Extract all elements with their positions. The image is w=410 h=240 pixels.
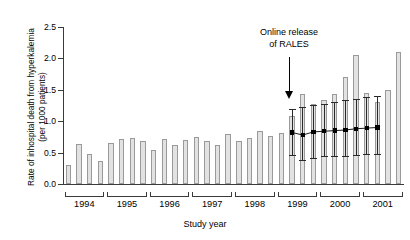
year-bracket-1995 [107,192,147,197]
data-point-marker [343,128,347,132]
y-tick-label-2.0: 2.0 [16,53,56,63]
y-tick-label-0.5: 0.5 [16,147,56,157]
year-bracket-2000 [320,192,360,197]
trend-line [63,27,404,184]
year-label-2001: 2001 [363,199,403,209]
year-label-2000: 2000 [320,199,360,209]
year-bracket-1999 [278,192,318,197]
data-point-marker [365,126,369,130]
year-label-1998: 1998 [235,199,275,209]
year-bracket-1996 [150,192,190,197]
x-axis-title: Study year [0,219,410,229]
chart-figure: Rate of inhospital death from hyperkalem… [0,0,410,240]
data-point-marker [333,128,337,132]
data-point-marker [311,130,315,134]
y-tick-label-2.5: 2.5 [16,22,56,32]
year-bracket-1994 [65,192,105,197]
year-bracket-2001 [363,192,403,197]
annotation-rales: Online release of RALES [228,27,350,50]
year-label-1997: 1997 [192,199,232,209]
year-bracket-1997 [192,192,232,197]
data-point-marker [290,130,294,134]
y-tick-label-1.5: 1.5 [16,84,56,94]
y-tick-0.0 [58,184,63,185]
data-point-marker [301,133,305,137]
y-tick-label-0.0: 0.0 [16,179,56,189]
data-point-marker [375,125,379,129]
year-label-1994: 1994 [65,199,105,209]
y-tick-label-1.0: 1.0 [16,116,56,126]
annotation-arrow-shaft [289,57,290,93]
year-bracket-1998 [235,192,275,197]
x-axis-line [63,184,405,185]
plot-area [63,27,404,184]
y-axis-title: Rate of inhospital death from hyperkalem… [26,7,48,207]
annotation-arrow-head-icon [285,91,293,99]
year-label-1996: 1996 [150,199,190,209]
data-point-marker [354,127,358,131]
data-point-marker [322,129,326,133]
year-label-1995: 1995 [107,199,147,209]
year-label-1999: 1999 [278,199,318,209]
